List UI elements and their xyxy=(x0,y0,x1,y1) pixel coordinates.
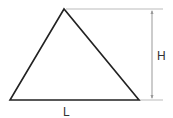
arrow-up-icon xyxy=(151,10,154,14)
base-label: L xyxy=(63,105,70,118)
triangle-diagram: H L xyxy=(0,0,173,118)
height-label: H xyxy=(157,49,166,63)
arrow-down-icon xyxy=(151,95,154,99)
triangle-shape xyxy=(10,9,139,100)
height-dimension xyxy=(151,10,154,99)
